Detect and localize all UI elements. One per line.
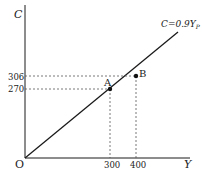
origin-label: O — [15, 158, 24, 171]
consumption-line — [25, 32, 178, 158]
point-b — [134, 74, 138, 78]
y-tick-306: 306 — [8, 72, 24, 82]
y-axis-label: C — [14, 8, 23, 21]
line-equation-label: C=0.9YP — [161, 19, 201, 30]
point-b-label: B — [139, 68, 146, 79]
consumption-diagram: C Y O 306 270 300 400 A B C=0.9YP — [0, 0, 202, 171]
x-tick-300: 300 — [104, 160, 120, 170]
y-tick-270: 270 — [8, 84, 24, 94]
point-a-label: A — [103, 77, 112, 88]
x-tick-400: 400 — [130, 160, 146, 170]
x-axis-label: Y — [184, 158, 193, 171]
